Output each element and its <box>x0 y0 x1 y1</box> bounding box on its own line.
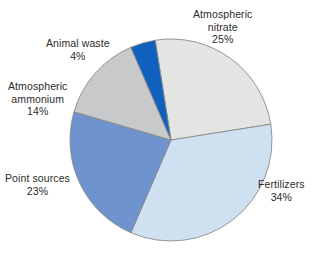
slice-label-atmospheric-nitrate: Atmospheric nitrate 25% <box>193 8 252 46</box>
slice-label-line1: Animal waste <box>46 37 110 50</box>
slice-label-point-sources: Point sources 23% <box>5 172 70 197</box>
slice-value: 25% <box>193 33 252 46</box>
slice-value: 14% <box>8 105 67 118</box>
slice-value: 34% <box>258 191 305 204</box>
slice-value: 23% <box>5 185 70 198</box>
slice-label-animal-waste: Animal waste 4% <box>46 37 110 62</box>
slice-label-fertilizers: Fertilizers 34% <box>258 178 305 203</box>
slice-label-line1: Atmospheric <box>8 80 67 93</box>
slice-label-line2: nitrate <box>193 21 252 34</box>
slice-label-line1: Atmospheric <box>193 8 252 21</box>
slice-label-line1: Fertilizers <box>258 178 305 191</box>
pie-chart: Atmospheric nitrate 25% Animal waste 4% … <box>0 0 332 254</box>
slice-label-atmospheric-ammonium: Atmospheric ammonium 14% <box>8 80 67 118</box>
slice-label-line2: ammonium <box>8 93 67 106</box>
slice-value: 4% <box>46 50 110 63</box>
pie-slice-group <box>70 39 272 241</box>
pie-slice-atmospheric-nitrate[interactable] <box>155 39 271 140</box>
slice-label-line1: Point sources <box>5 172 70 185</box>
